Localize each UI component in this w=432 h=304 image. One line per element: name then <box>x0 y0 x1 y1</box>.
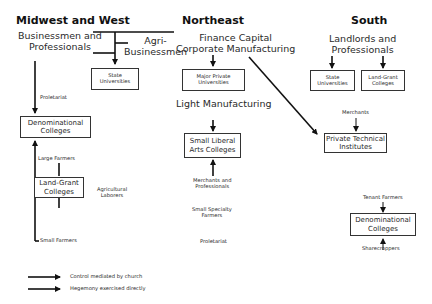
midwest-large-farmers-label: Large Farmers <box>38 156 75 162</box>
midwest-proletariat-label: Proletariat <box>40 95 67 101</box>
midwest-small-farmers-label: Small Farmers <box>40 238 77 244</box>
northeast-small-liberal-arts-box: Small Liberal Arts Colleges <box>184 133 241 158</box>
south-denominational-colleges-box: Denominational Colleges <box>350 213 416 236</box>
northeast-light-manufacturing-label: Light Manufacturing <box>176 99 272 110</box>
midwest-land-grant-colleges-box: Land-Grant Colleges <box>34 177 84 198</box>
south-tenant-farmers-label: Tenant Farmers <box>363 195 403 201</box>
south-land-grant-colleges-box: Land-Grant Colleges <box>361 70 405 91</box>
northeast-merchants-professionals-label: Merchants and Professionals <box>193 178 231 190</box>
legend-church-label: Control mediated by church <box>70 274 142 280</box>
midwest-state-universities-box: State Universities <box>91 68 139 90</box>
northeast-proletariat-label: Proletariat <box>200 239 227 245</box>
region-northeast-heading: Northeast <box>182 15 244 27</box>
northeast-major-private-universities-box: Major Private Universities <box>182 69 245 91</box>
northeast-small-specialty-farmers-label: Small Specialty Farmers <box>192 207 232 219</box>
south-state-universities-box: State Universities <box>310 70 355 91</box>
northeast-finance-capital-label: Finance Capital Corporate Manufacturing <box>176 33 295 54</box>
midwest-businessmen-label: Businessmen and Professionals <box>18 31 102 52</box>
midwest-agricultural-laborers-label: Agricultural Laborers <box>97 187 127 199</box>
region-south-heading: South <box>351 15 387 27</box>
midwest-denominational-colleges-box: Denominational Colleges <box>20 116 91 138</box>
south-sharecroppers-label: Sharecroppers <box>362 246 400 252</box>
legend-direct-label: Hegemony exercised directly <box>70 286 146 292</box>
south-private-technical-institutes-box: Private Technical Institutes <box>324 133 387 153</box>
south-landlords-label: Landlords and Professionals <box>329 34 396 55</box>
region-midwest-heading: Midwest and West <box>16 15 130 27</box>
south-merchants-label: Merchants <box>342 110 369 116</box>
